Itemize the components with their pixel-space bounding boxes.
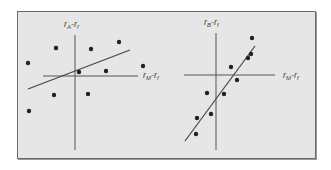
data-point bbox=[205, 91, 209, 95]
data-point bbox=[77, 70, 81, 74]
panel-b-regression-line bbox=[185, 46, 255, 141]
data-point bbox=[235, 78, 239, 82]
data-point bbox=[89, 47, 93, 51]
panel-b-y-label: rB-rf bbox=[204, 17, 220, 28]
data-point bbox=[250, 36, 254, 40]
panel-a-regression-line bbox=[28, 50, 130, 89]
data-point bbox=[141, 64, 145, 68]
data-point bbox=[54, 46, 58, 50]
data-point bbox=[222, 92, 226, 96]
data-point bbox=[117, 40, 121, 44]
panel-b-points bbox=[194, 36, 254, 136]
panel-a-x-label: rM-rf bbox=[143, 70, 160, 81]
data-point bbox=[52, 93, 56, 97]
data-point bbox=[246, 56, 250, 60]
chart-canvas: rA-rf rM-rf rB-rf rM-rf bbox=[0, 0, 331, 170]
panel-b-x-label: rM-rf bbox=[283, 70, 300, 81]
data-point bbox=[229, 65, 233, 69]
data-point bbox=[86, 92, 90, 96]
data-point bbox=[104, 69, 108, 73]
data-point bbox=[209, 112, 213, 116]
data-point bbox=[27, 109, 31, 113]
panel-b-scatter: rB-rf rM-rf bbox=[184, 17, 300, 150]
data-point bbox=[195, 116, 199, 120]
panel-a-scatter: rA-rf rM-rf bbox=[26, 19, 160, 150]
data-point bbox=[249, 52, 253, 56]
data-point bbox=[26, 61, 30, 65]
data-point bbox=[194, 132, 198, 136]
regression-line bbox=[185, 46, 255, 141]
panel-a-y-label: rA-rf bbox=[64, 19, 80, 30]
regression-line bbox=[28, 50, 130, 89]
